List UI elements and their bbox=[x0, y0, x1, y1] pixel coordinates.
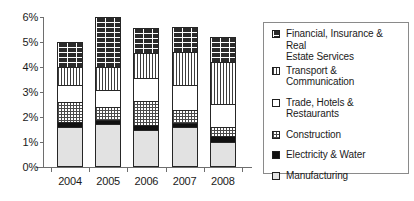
legend-item-label: Electricity & Water bbox=[286, 149, 365, 161]
black-icon bbox=[272, 151, 280, 159]
bar-segment-2005-transport-communication bbox=[95, 67, 121, 90]
bar-segment-2008-manufacturing bbox=[210, 142, 236, 168]
legend-item-label: Trade, Hotels & Restaurants bbox=[286, 97, 404, 120]
y-axis-tick-mark bbox=[40, 142, 44, 143]
x-axis-label-2007: 2007 bbox=[173, 175, 197, 187]
bar-segment-2007-construction bbox=[172, 110, 198, 123]
legend-item-label: Manufacturing bbox=[286, 170, 348, 182]
x-axis-label-2008: 2008 bbox=[211, 175, 235, 187]
bar-segment-2004-transport-communication bbox=[57, 67, 83, 85]
bar-segment-2007-electricity-water bbox=[172, 123, 198, 128]
y-axis-tick-label: 6% bbox=[23, 11, 39, 23]
vertical-stripes-icon bbox=[272, 67, 280, 75]
checker-dot-icon bbox=[272, 131, 280, 139]
y-axis-tick-label: 3% bbox=[23, 86, 39, 98]
bar-segment-2008-financial-insurance-real-estate-services bbox=[210, 37, 236, 62]
chart-figure: 0%1%2%3%4%5%6% 20042005200620072008 Fina… bbox=[0, 0, 414, 201]
light-gray-icon bbox=[272, 172, 280, 180]
bar-segment-2007-manufacturing bbox=[172, 127, 198, 167]
legend-item[interactable]: Transport & Communication bbox=[272, 65, 404, 88]
x-axis-tick-mark bbox=[204, 167, 205, 172]
legend-item-label: Construction bbox=[286, 129, 341, 141]
x-axis-line bbox=[36, 167, 252, 168]
x-axis-label-2006: 2006 bbox=[135, 175, 159, 187]
bar-2006 bbox=[133, 28, 159, 168]
bar-2005 bbox=[95, 17, 121, 167]
y-axis-tick-label: 1% bbox=[23, 136, 39, 148]
y-axis-tick-mark bbox=[40, 92, 44, 93]
bar-segment-2008-transport-communication bbox=[210, 62, 236, 104]
bar-segment-2006-construction bbox=[133, 101, 159, 125]
bar-2008 bbox=[210, 37, 236, 167]
bar-2004 bbox=[57, 42, 83, 167]
legend-item[interactable]: Electricity & Water bbox=[272, 149, 404, 161]
bar-segment-2008-construction bbox=[210, 127, 236, 137]
x-axis-label-2005: 2005 bbox=[96, 175, 120, 187]
legend-item-label: Transport & Communication bbox=[286, 65, 404, 88]
bar-segment-2005-construction bbox=[95, 107, 121, 120]
bar-segment-2005-electricity-water bbox=[95, 120, 121, 125]
legend-item[interactable]: Trade, Hotels & Restaurants bbox=[272, 97, 404, 120]
bar-2007 bbox=[172, 27, 198, 167]
y-axis-tick-mark bbox=[40, 67, 44, 68]
brick-icon bbox=[272, 30, 280, 38]
y-axis-tick-mark bbox=[40, 42, 44, 43]
legend-item[interactable]: Financial, Insurance & Real Estate Servi… bbox=[272, 28, 404, 63]
bar-segment-2006-financial-insurance-real-estate-services bbox=[133, 28, 159, 53]
x-axis-tick-mark bbox=[51, 167, 52, 172]
bar-segment-2004-financial-insurance-real-estate-services bbox=[57, 42, 83, 67]
bar-segment-2006-trade-hotels-restaurants bbox=[133, 78, 159, 101]
x-axis-label-2004: 2004 bbox=[58, 175, 82, 187]
bar-segment-2004-trade-hotels-restaurants bbox=[57, 85, 83, 102]
bar-segment-2004-manufacturing bbox=[57, 127, 83, 167]
bar-segment-2008-trade-hotels-restaurants bbox=[210, 104, 236, 127]
y-axis-tick-label: 0% bbox=[23, 161, 39, 173]
y-axis-tick-label: 5% bbox=[23, 36, 39, 48]
legend-item[interactable]: Construction bbox=[272, 129, 404, 141]
bar-segment-2008-electricity-water bbox=[210, 136, 236, 142]
bar-segment-2004-electricity-water bbox=[57, 122, 83, 127]
bar-segment-2005-financial-insurance-real-estate-services bbox=[95, 17, 121, 67]
bar-segment-2007-trade-hotels-restaurants bbox=[172, 85, 198, 110]
white-icon bbox=[272, 99, 280, 107]
bar-segment-2007-transport-communication bbox=[172, 52, 198, 85]
bar-segment-2006-manufacturing bbox=[133, 130, 159, 167]
y-axis-tick-mark bbox=[40, 167, 44, 168]
bar-segment-2006-electricity-water bbox=[133, 125, 159, 131]
y-axis-tick-mark bbox=[40, 117, 44, 118]
x-axis-tick-mark bbox=[89, 167, 90, 172]
x-axis-tick-mark bbox=[166, 167, 167, 172]
legend-item-label: Financial, Insurance & Real Estate Servi… bbox=[286, 28, 404, 63]
bar-segment-2004-construction bbox=[57, 102, 83, 123]
legend-item[interactable]: Manufacturing bbox=[272, 170, 404, 182]
bar-segment-2007-financial-insurance-real-estate-services bbox=[172, 27, 198, 52]
bar-segment-2005-trade-hotels-restaurants bbox=[95, 90, 121, 107]
y-axis-tick-label: 2% bbox=[23, 111, 39, 123]
x-axis-tick-mark bbox=[242, 167, 243, 172]
x-axis-tick-mark bbox=[127, 167, 128, 172]
bar-segment-2006-transport-communication bbox=[133, 53, 159, 78]
y-axis-tick-label: 4% bbox=[23, 61, 39, 73]
bar-segment-2005-manufacturing bbox=[95, 124, 121, 167]
chart-legend: Financial, Insurance & Real Estate Servi… bbox=[263, 22, 409, 174]
y-axis-tick-mark bbox=[40, 17, 44, 18]
